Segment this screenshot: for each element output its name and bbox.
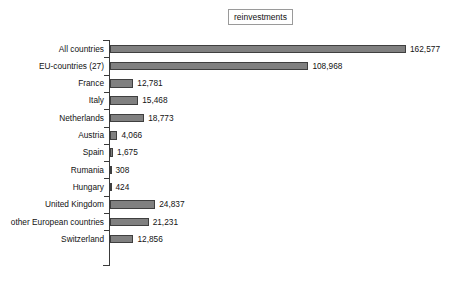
bar-row: Rumania308 <box>0 161 453 178</box>
bar-row: Austria4,066 <box>0 127 453 144</box>
plot-area: All countries162,577EU-countries (27)108… <box>0 0 453 281</box>
bar-value-label: 1,675 <box>117 147 138 157</box>
bar-row: Spain1,675 <box>0 144 453 161</box>
bar <box>110 166 112 175</box>
bar-value-label: 18,773 <box>148 113 173 123</box>
category-label: other European countries <box>11 217 104 227</box>
axis-tick <box>104 127 109 128</box>
bar-row: Netherlands18,773 <box>0 109 453 126</box>
chart-title: reinvestments <box>228 9 293 25</box>
category-label: EU-countries (27) <box>39 61 104 71</box>
bar-value-label: 15,468 <box>142 95 167 105</box>
bar-value-label: 24,837 <box>159 199 184 209</box>
category-label: United Kingdom <box>45 199 104 209</box>
bar-value-label: 424 <box>116 182 130 192</box>
axis-tick <box>104 178 109 179</box>
category-label: Hungary <box>73 182 104 192</box>
category-label: Austria <box>78 130 104 140</box>
category-label: Netherlands <box>59 113 104 123</box>
bar <box>110 183 112 192</box>
bar <box>110 131 117 140</box>
bar <box>110 96 138 105</box>
bar <box>110 235 133 244</box>
axis-tick <box>104 40 109 41</box>
bar-row: United Kingdom24,837 <box>0 196 453 213</box>
axis-tick <box>104 92 109 93</box>
bar-row: All countries162,577 <box>0 40 453 57</box>
bar-value-label: 12,856 <box>137 234 162 244</box>
bar <box>110 114 144 123</box>
axis-tick <box>104 196 109 197</box>
bar-value-label: 21,231 <box>153 217 178 227</box>
axis-tick <box>104 230 109 231</box>
category-label: Spain <box>83 147 104 157</box>
chart-container: All countries162,577EU-countries (27)108… <box>0 0 453 281</box>
bar-value-label: 4,066 <box>121 130 142 140</box>
bar-value-label: 12,781 <box>137 78 162 88</box>
bar <box>110 79 133 88</box>
axis-tick <box>104 75 109 76</box>
bar-value-label: 162,577 <box>410 44 440 54</box>
category-label: France <box>78 78 104 88</box>
bar <box>110 148 113 157</box>
category-label: Rumania <box>71 165 104 175</box>
bar-row: Hungary424 <box>0 178 453 195</box>
bar-value-label: 308 <box>116 165 130 175</box>
category-label: Switzerland <box>61 234 104 244</box>
bar <box>110 45 406 54</box>
bar <box>110 200 155 209</box>
bar-value-label: 108,968 <box>312 61 342 71</box>
category-label: Italy <box>89 95 104 105</box>
bar-row: other European countries21,231 <box>0 213 453 230</box>
bar-row: Switzerland12,856 <box>0 230 453 247</box>
bar-row: Italy15,468 <box>0 92 453 109</box>
bar <box>110 62 308 71</box>
axis-tick <box>104 213 109 214</box>
axis-tick <box>104 144 109 145</box>
category-label: All countries <box>59 44 104 54</box>
category-axis-bottom-cap <box>103 265 110 266</box>
bar-row: EU-countries (27)108,968 <box>0 57 453 74</box>
bar-row: France12,781 <box>0 75 453 92</box>
axis-tick <box>104 161 109 162</box>
axis-tick <box>104 57 109 58</box>
axis-tick <box>104 109 109 110</box>
bar <box>110 218 149 227</box>
